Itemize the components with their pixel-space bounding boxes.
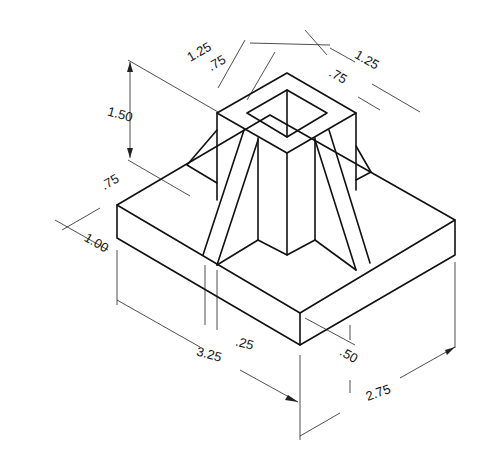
dim-rib-offset: .75 — [98, 171, 121, 193]
dim-base-length: 3.25 — [195, 344, 223, 365]
base-sides — [117, 205, 455, 345]
dimension-labels: 1.25 .75 1.25 .75 1.50 .75 1.00 3.25 .25… — [82, 39, 393, 404]
base-top-face — [117, 115, 455, 313]
right-rib-base — [315, 240, 356, 270]
ribs — [187, 130, 371, 270]
dim-base-width: 2.75 — [364, 381, 393, 404]
dim-rib-thickness: .25 — [234, 334, 255, 353]
dim-base-thickness: .50 — [337, 344, 360, 366]
isometric-drawing: 1.25 .75 1.25 .75 1.50 .75 1.00 3.25 .25… — [0, 0, 481, 470]
dim-base-height-left: 1.00 — [82, 230, 111, 256]
tower — [217, 73, 356, 255]
base-block — [117, 115, 455, 345]
dim-top-outer-right: 1.25 — [352, 47, 381, 73]
right-front-rib-outer — [329, 130, 370, 263]
left-side-rib — [187, 130, 217, 183]
left-front-rib-inner — [217, 140, 258, 265]
dim-top-inner-right: .75 — [327, 65, 350, 87]
dim-top-inner-left: .75 — [205, 52, 228, 74]
left-front-rib-outer — [203, 130, 244, 255]
right-side-rib — [356, 146, 371, 180]
